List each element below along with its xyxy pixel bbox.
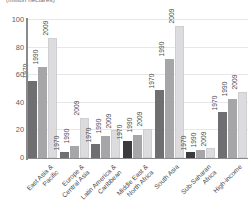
bar-year-label: 1970: [86, 127, 93, 142]
bar-group: 197019902009: [216, 20, 248, 158]
y-tick-label: 60: [2, 71, 24, 78]
bar-group: 197019902009: [185, 20, 217, 158]
y-tick-label: 100: [2, 16, 24, 23]
y-tick-label: 40: [2, 99, 24, 106]
bar-group-bars: 197019902009: [185, 20, 217, 158]
bar-year-label: 1970: [55, 135, 62, 150]
bar[interactable]: [38, 67, 47, 158]
bar-year-label: 1990: [65, 129, 72, 144]
bar-year-label: 1990: [191, 133, 198, 148]
bar[interactable]: [196, 150, 205, 158]
y-tick-label: 20: [2, 127, 24, 134]
bar-slot: 1990: [38, 20, 47, 158]
bar[interactable]: [165, 59, 174, 158]
bar-year-label: 1970: [212, 95, 219, 110]
bar-year-label: 1970: [149, 73, 156, 88]
x-axis-line: [26, 158, 248, 159]
bar[interactable]: [133, 135, 142, 158]
bar-group-bars: 197019902009: [122, 20, 154, 158]
bar[interactable]: [143, 129, 152, 158]
bar-year-label: 1970: [181, 135, 188, 150]
bar-group: 197019902009: [122, 20, 154, 158]
bar-slot: 1970: [28, 20, 37, 158]
y-axis-line: [26, 18, 28, 160]
bar[interactable]: [123, 141, 132, 158]
bar-slot: 2009: [143, 20, 152, 158]
bar-year-label: 2009: [201, 131, 208, 146]
bar[interactable]: [228, 99, 237, 158]
bar-year-label: 1990: [128, 117, 135, 132]
bar[interactable]: [218, 112, 227, 158]
bar-slot: 1990: [70, 20, 79, 158]
bar[interactable]: [70, 146, 79, 158]
bar-year-label: 1990: [159, 42, 166, 57]
bar-slot: 1970: [91, 20, 100, 158]
bar-year-label: 2009: [75, 101, 82, 116]
bar[interactable]: [238, 92, 247, 158]
bar-group-bars: 197019902009: [216, 20, 248, 158]
bar[interactable]: [101, 136, 110, 158]
y-tick-label: 80: [2, 44, 24, 51]
bar[interactable]: [91, 144, 100, 158]
bar-year-label: 2009: [43, 21, 50, 36]
y-tick-label: 0: [2, 154, 24, 161]
bar-year-label: 2009: [138, 112, 145, 127]
bar-year-label: 1990: [33, 50, 40, 65]
bar-year-label: 2009: [169, 8, 176, 23]
bar-year-label: 1990: [222, 82, 229, 97]
bar-slot: 1990: [101, 20, 110, 158]
bar-year-label: 1970: [118, 124, 125, 139]
bar-slot: 2009: [238, 20, 247, 158]
bar-year-label: 1990: [96, 119, 103, 134]
plot-area: 1970199020091970199020091970199020091970…: [27, 20, 248, 158]
y-axis-tick-labels: 020406080100: [0, 0, 24, 223]
bar-chart: (million hectares) 020406080100 19701990…: [0, 0, 252, 223]
bar-year-label: 2009: [106, 113, 113, 128]
bar-slot: 2009: [206, 20, 215, 158]
bar-year-label: 2009: [232, 75, 239, 90]
bar-slot: 1990: [133, 20, 142, 158]
bar-slot: 1970: [123, 20, 132, 158]
bar[interactable]: [206, 148, 215, 158]
bar[interactable]: [155, 90, 164, 158]
bar-slot: 1990: [165, 20, 174, 158]
bar[interactable]: [28, 81, 37, 158]
